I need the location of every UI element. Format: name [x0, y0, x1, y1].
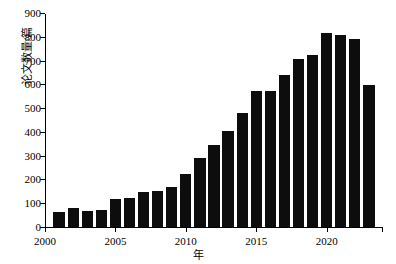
- x-axis-end-tick: [382, 228, 383, 232]
- bar: [96, 210, 107, 227]
- bar: [307, 55, 318, 227]
- bar: [53, 212, 64, 227]
- y-tick-label: 500: [25, 102, 42, 114]
- bar: [110, 199, 121, 227]
- bar: [293, 59, 304, 227]
- bar: [180, 174, 191, 227]
- y-tick-label: 900: [25, 7, 42, 19]
- x-tick-mark: [327, 228, 328, 232]
- bar: [124, 198, 135, 227]
- y-axis-line: [45, 14, 46, 228]
- y-tick-label: 200: [25, 173, 42, 185]
- x-tick-mark: [45, 228, 46, 232]
- x-axis-title: 年: [0, 246, 396, 262]
- y-tick-label: 600: [25, 78, 42, 90]
- bar: [68, 208, 79, 227]
- bar: [166, 187, 177, 227]
- bar: [138, 192, 149, 227]
- y-tick-label: 400: [25, 126, 42, 138]
- x-tick-mark: [115, 228, 116, 232]
- bar: [251, 91, 262, 227]
- y-tick-label: 800: [25, 31, 42, 43]
- bar-chart: 论文数量/篇 010020030040050060070080090020002…: [0, 0, 396, 264]
- y-tick-label: 100: [25, 197, 42, 209]
- bar: [349, 39, 360, 227]
- plot-area: 0100200300400500600700800900200020052010…: [45, 14, 383, 228]
- bar: [82, 211, 93, 227]
- bar: [152, 191, 163, 227]
- bar: [279, 75, 290, 227]
- bar: [194, 158, 205, 227]
- y-tick-label: 700: [25, 55, 42, 67]
- y-tick-label: 0: [36, 221, 42, 233]
- x-tick-mark: [256, 228, 257, 232]
- y-tick-label: 300: [25, 150, 42, 162]
- bar: [335, 35, 346, 227]
- bar: [321, 33, 332, 227]
- bar: [363, 85, 374, 227]
- bar: [265, 91, 276, 227]
- bar: [237, 113, 248, 227]
- bar: [208, 145, 219, 227]
- x-tick-mark: [186, 228, 187, 232]
- bar: [222, 131, 233, 227]
- x-axis-line: [45, 227, 383, 228]
